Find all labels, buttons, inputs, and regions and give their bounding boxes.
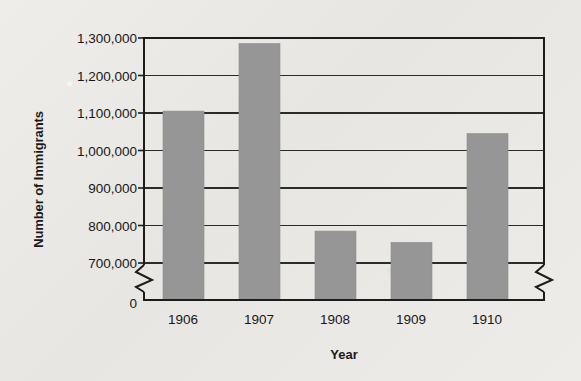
x-axis-title: Year xyxy=(143,347,545,362)
bar-series xyxy=(163,44,508,300)
bar-1909 xyxy=(391,242,432,300)
bar-1910 xyxy=(467,134,508,300)
axis-break-zigzag-left xyxy=(136,265,152,292)
bar-1906 xyxy=(163,111,204,300)
bar-1908 xyxy=(315,231,356,300)
immigrants-bar-chart: Number of Immigrants 1,300,000 1,200,000… xyxy=(0,0,581,381)
x-tick-label-1910: 1910 xyxy=(442,312,532,327)
bar-1907 xyxy=(239,44,280,300)
axis-break-zigzag-right xyxy=(536,265,552,292)
